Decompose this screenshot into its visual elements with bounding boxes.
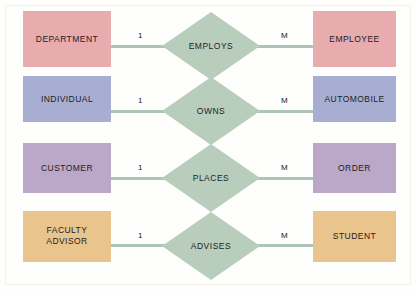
entity-box-right[interactable]: STUDENT: [313, 211, 396, 262]
connector-line-right: [257, 244, 314, 247]
cardinality-label-left: 1: [138, 96, 143, 105]
connector-line-left: [110, 177, 166, 180]
er-diagram-canvas: DEPARTMENTEMPLOYEEEMPLOYS1MINDIVIDUALAUT…: [0, 0, 417, 291]
cardinality-label-right: M: [281, 163, 288, 172]
connector-line-right: [257, 45, 314, 48]
relationship-diamond[interactable]: ADVISES: [161, 211, 261, 281]
relationship-diamond[interactable]: PLACES: [161, 143, 261, 213]
entity-label: DEPARTMENT: [36, 34, 98, 45]
entity-label: EMPLOYEE: [329, 34, 379, 45]
relationship-label: PLACES: [161, 143, 261, 213]
connector-line-right: [257, 177, 314, 180]
cardinality-label-left: 1: [138, 231, 143, 240]
entity-box-left[interactable]: CUSTOMER: [23, 143, 111, 193]
entity-label: CUSTOMER: [41, 163, 93, 174]
relationship-label: OWNS: [161, 76, 261, 146]
relationship-row: DEPARTMENTEMPLOYEEEMPLOYS1M: [0, 11, 417, 81]
cardinality-label-right: M: [281, 31, 288, 40]
entity-label: ORDER: [338, 163, 371, 174]
entity-box-right[interactable]: AUTOMOBILE: [313, 76, 396, 122]
connector-line-right: [257, 110, 314, 113]
entity-label: FACULTY ADVISOR: [46, 225, 87, 247]
connector-line-left: [110, 110, 166, 113]
entity-label: STUDENT: [333, 231, 376, 242]
cardinality-label-right: M: [281, 231, 288, 240]
relationship-diamond[interactable]: EMPLOYS: [161, 11, 261, 81]
cardinality-label-right: M: [281, 96, 288, 105]
entity-label: INDIVIDUAL: [41, 94, 93, 105]
relationship-diamond[interactable]: OWNS: [161, 76, 261, 146]
entity-box-right[interactable]: EMPLOYEE: [313, 11, 396, 67]
relationship-label: EMPLOYS: [161, 11, 261, 81]
connector-line-left: [110, 45, 166, 48]
relationship-row: INDIVIDUALAUTOMOBILEOWNS1M: [0, 76, 417, 146]
cardinality-label-left: 1: [138, 31, 143, 40]
cardinality-label-left: 1: [138, 163, 143, 172]
entity-box-left[interactable]: FACULTY ADVISOR: [23, 211, 111, 262]
relationship-label: ADVISES: [161, 211, 261, 281]
entity-box-left[interactable]: DEPARTMENT: [23, 11, 111, 67]
entity-label: AUTOMOBILE: [324, 94, 384, 105]
relationship-row: CUSTOMERORDERPLACES1M: [0, 143, 417, 213]
relationship-row: FACULTY ADVISORSTUDENTADVISES1M: [0, 211, 417, 281]
entity-box-left[interactable]: INDIVIDUAL: [23, 76, 111, 122]
connector-line-left: [110, 244, 166, 247]
entity-box-right[interactable]: ORDER: [313, 143, 396, 193]
